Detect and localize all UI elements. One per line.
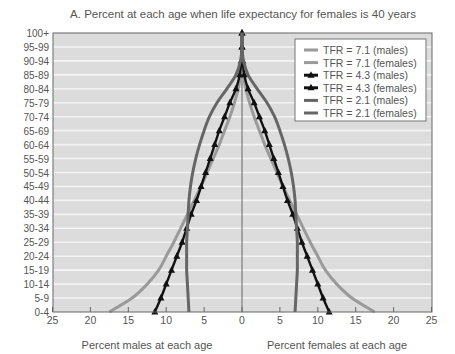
x-tick-label: 25 [426, 314, 438, 326]
x-tick-label: 5 [277, 314, 283, 326]
legend-label: TFR = 7.1 (females) [323, 57, 417, 69]
y-tick-label: 100+ [26, 28, 49, 39]
legend-label: TFR = 4.3 (males) [323, 69, 408, 81]
x-tick-label: 15 [350, 314, 362, 326]
y-tick-label: 30-34 [23, 223, 49, 234]
x-axis-label-males: Percent males at each age [82, 339, 213, 351]
y-tick-label: 65-69 [23, 126, 49, 137]
y-tick-label: 75-79 [23, 98, 49, 109]
x-tick-label: 15 [122, 314, 134, 326]
x-tick-label: 10 [160, 314, 172, 326]
chart-title: A. Percent at each age when life expecta… [70, 8, 416, 20]
y-tick-label: 55-59 [23, 154, 49, 165]
y-tick-label: 25-29 [23, 237, 49, 248]
y-tick-label: 85-89 [23, 70, 49, 81]
y-tick-label: 80-84 [23, 84, 49, 95]
x-tick-label: 0 [239, 314, 245, 326]
x-tick-label: 20 [85, 314, 97, 326]
y-axis-labels: 0-45-910-1415-1920-2425-2930-3435-3940-4… [23, 28, 49, 318]
x-tick-label: 5 [201, 314, 207, 326]
y-tick-label: 10-14 [23, 279, 49, 290]
x-tick-label: 20 [388, 314, 400, 326]
y-tick-label: 40-44 [23, 195, 49, 206]
y-tick-label: 95-99 [23, 42, 49, 53]
y-tick-label: 90-94 [23, 56, 49, 67]
x-axis-label-females: Percent females at each age [267, 339, 407, 351]
y-tick-label: 70-74 [23, 112, 49, 123]
y-tick-label: 45-49 [23, 181, 49, 192]
y-tick-label: 50-54 [23, 168, 49, 179]
population-pyramid-chart: A. Percent at each age when life expecta… [0, 0, 455, 354]
y-tick-label: 35-39 [23, 209, 49, 220]
legend-label: TFR = 7.1 (males) [323, 44, 408, 56]
legend-label: TFR = 2.1 (females) [323, 107, 417, 119]
legend: TFR = 7.1 (males)TFR = 7.1 (females)TFR … [295, 39, 426, 121]
legend-label: TFR = 2.1 (males) [323, 94, 408, 106]
legend-label: TFR = 4.3 (females) [323, 82, 417, 94]
y-tick-label: 20-24 [23, 251, 49, 262]
x-tick-label: 25 [47, 314, 59, 326]
x-tick-label: 10 [312, 314, 324, 326]
y-tick-label: 5-9 [35, 293, 50, 304]
y-tick-label: 15-19 [23, 265, 49, 276]
y-tick-label: 60-64 [23, 140, 49, 151]
